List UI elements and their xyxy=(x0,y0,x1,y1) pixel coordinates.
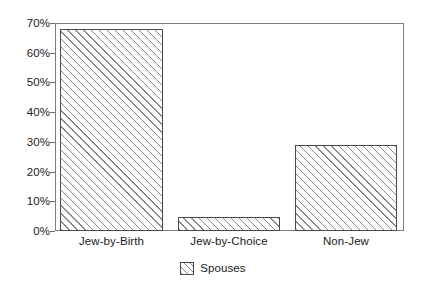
legend: Spouses xyxy=(0,262,426,275)
bar-jew-by-choice[interactable] xyxy=(178,217,280,231)
x-tick-label-jew-by-birth: Jew-by-Birth xyxy=(51,235,172,248)
x-tick-label-non-jew: Non-Jew xyxy=(285,235,407,248)
bar-chart: 70% 60% 50% 40% 30% 20% 10% 0% Jew-by-Bi… xyxy=(0,0,426,289)
legend-swatch-spouses xyxy=(180,262,194,275)
x-tick-label-jew-by-choice: Jew-by-Choice xyxy=(168,235,290,248)
bar-non-jew[interactable] xyxy=(295,145,397,231)
bar-jew-by-birth[interactable] xyxy=(60,29,163,231)
legend-label-spouses: Spouses xyxy=(200,262,245,275)
